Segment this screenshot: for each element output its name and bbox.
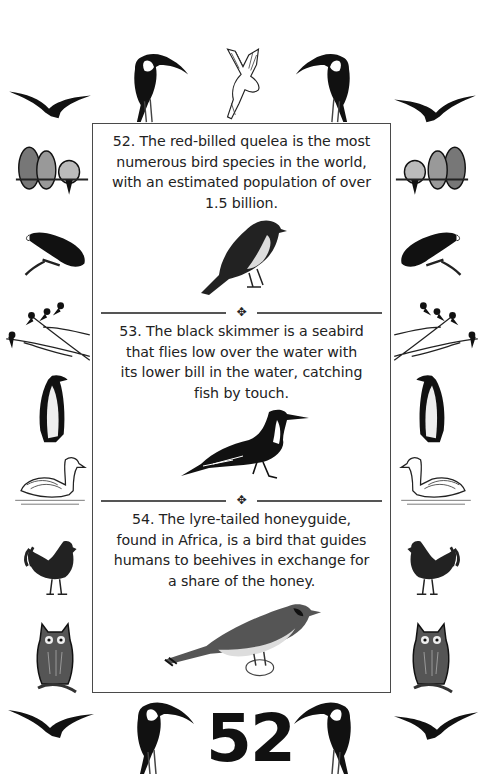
fleuron-icon: ✥	[236, 494, 246, 506]
fact-text-line: a share of the honey.	[93, 571, 390, 592]
penguin-icon	[412, 370, 452, 448]
owl-icon	[30, 618, 80, 698]
fact-text-line: with an estimated population of over	[93, 172, 390, 193]
fact-text-line: 52. The red-billed quelea is the most	[93, 131, 390, 152]
seagull-icon	[6, 702, 96, 742]
toucan-icon	[114, 48, 194, 124]
lovebirds-icon	[14, 140, 90, 200]
fact-text-line: humans to beehives in exchange for	[93, 550, 390, 571]
red-billed-quelea-illustration	[191, 210, 291, 302]
swan-icon	[10, 452, 90, 510]
fact-52: 52. The red-billed quelea is the most nu…	[93, 131, 390, 213]
black-skimmer-illustration	[173, 404, 313, 484]
parrot-icon	[394, 222, 470, 282]
fact-text-line: 54. The lyre-tailed honeyguide,	[93, 509, 390, 530]
lovebirds-icon	[394, 140, 470, 200]
section-divider: ✥	[101, 496, 382, 506]
rooster-icon	[20, 532, 86, 602]
dove-icon	[214, 44, 272, 124]
divider-line	[101, 312, 226, 314]
fact-text-line: fish by touch.	[93, 383, 390, 404]
rooster-icon	[398, 532, 464, 602]
fact-text-line: its lower bill in the water, catching	[93, 362, 390, 383]
fact-text-line: found in Africa, is a bird that guides	[93, 530, 390, 551]
penguin-icon	[32, 370, 72, 448]
fact-text-line: numerous bird species in the world,	[93, 152, 390, 173]
seagull-icon	[392, 704, 480, 744]
divider-line	[101, 500, 226, 502]
page-number: 52	[198, 706, 302, 772]
toucan-icon	[290, 48, 370, 124]
section-divider: ✥	[101, 308, 382, 318]
fleuron-icon: ✥	[236, 306, 246, 318]
toucan-icon	[118, 696, 198, 776]
birds-on-branch-icon	[4, 298, 92, 366]
fact-54: 54. The lyre-tailed honeyguide, found in…	[93, 509, 390, 591]
divider-line	[257, 312, 382, 314]
fact-text-line: 53. The black skimmer is a seabird	[93, 321, 390, 342]
birds-on-branch-icon	[392, 298, 480, 366]
fact-53: 53. The black skimmer is a seabird that …	[93, 321, 390, 403]
honeyguide-illustration	[159, 594, 327, 684]
toucan-icon	[290, 696, 370, 776]
parrot-icon	[16, 222, 92, 282]
swan-icon	[396, 452, 476, 510]
divider-line	[257, 500, 382, 502]
seagull-icon	[6, 84, 94, 122]
fact-text-line: that flies low over the water with	[93, 342, 390, 363]
owl-icon	[406, 618, 456, 698]
seagull-icon	[390, 88, 480, 126]
facts-panel: 52. The red-billed quelea is the most nu…	[92, 123, 391, 693]
